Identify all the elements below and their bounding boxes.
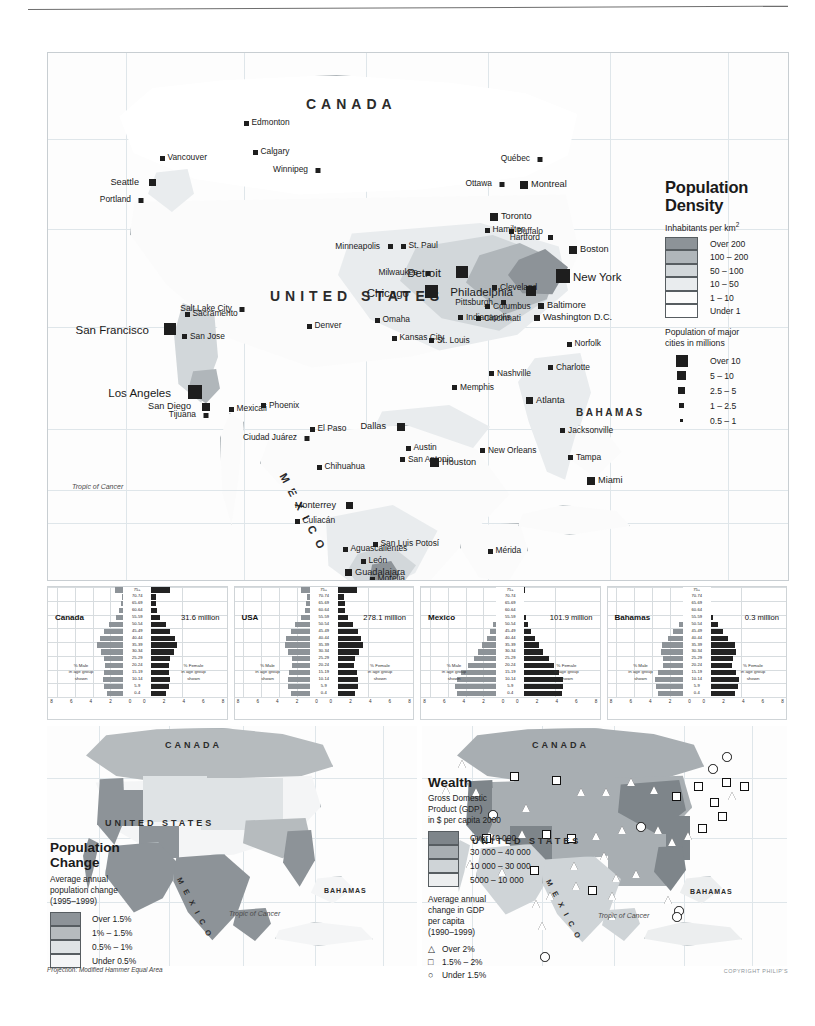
density-class-1: 100 – 200 xyxy=(665,250,805,264)
city-dot-icon xyxy=(204,413,209,418)
pyramid-axis-tick: 6 xyxy=(256,699,259,704)
city-label: Indianapolis xyxy=(466,313,511,322)
gdp-change-triangle-icon xyxy=(600,852,608,860)
city-label: Los Angeles xyxy=(108,387,171,399)
city-dot-icon xyxy=(500,182,505,187)
city-dot-icon xyxy=(526,397,533,404)
gdp-change-square-icon xyxy=(740,782,749,791)
pyramid-age-label: 10-14 xyxy=(496,677,524,681)
pyramid-axis-tick: 0 xyxy=(143,699,146,704)
pyramid-axis-tick: 4 xyxy=(182,699,185,704)
pyramid-axis-tick: 4 xyxy=(90,699,93,704)
pyramid-age-label: 25-29 xyxy=(123,656,151,660)
city-dot-icon xyxy=(343,547,348,552)
pyramid-age-label: 60-64 xyxy=(310,608,338,612)
city-dot-icon xyxy=(375,318,380,323)
density-swatch xyxy=(665,277,698,291)
wealth-swatch xyxy=(428,845,459,859)
wealth-legend: Wealth Gross Domestic Product (GDP) in $… xyxy=(428,775,588,982)
pyramid-age-label: 75+ xyxy=(123,588,151,592)
city-label: Ottawa xyxy=(465,179,492,188)
pyramid-age-label: 50-54 xyxy=(123,622,151,626)
city-dot-icon xyxy=(567,342,572,347)
wealth-class-1: 30 000 – 40 000 xyxy=(428,845,588,859)
city-label: Chicago xyxy=(367,287,409,299)
pyramid-male-note: % Malein age groupshown xyxy=(241,663,295,682)
pyramid-age-label: 5-9 xyxy=(123,684,151,688)
population-density-legend: Population Density Inhabitants per km2 O… xyxy=(665,178,805,428)
pyramid-axis-tick: 2 xyxy=(722,699,725,704)
city-dot-icon xyxy=(587,477,595,485)
pyramid-age-label: 70-74 xyxy=(123,594,151,598)
pyramid-age-label: 65-69 xyxy=(496,601,524,605)
pyramid-age-label: 55-59 xyxy=(496,615,524,619)
population-change-legend: Population Change Average annual populat… xyxy=(50,840,200,968)
pyramid-age-label: 25-29 xyxy=(310,656,338,660)
city-dot-icon xyxy=(452,385,457,390)
city-label: San Francisco xyxy=(75,324,149,336)
city-label: New York xyxy=(573,271,622,283)
map-country-label: CANADA xyxy=(165,740,222,750)
pyramid-age-label: 45-49 xyxy=(496,629,524,633)
legend-note: Average annual population change (1995–1… xyxy=(50,874,200,907)
pyramid-age-label: 20-24 xyxy=(123,663,151,667)
pyramid-value-axis: 8642002468 xyxy=(608,699,787,709)
wealth-symbol-square: □1.5% – 2% xyxy=(428,956,588,969)
pyramid-age-label: 40-44 xyxy=(496,636,524,640)
city-label: Nashville xyxy=(497,369,531,378)
map-country-label: UNITED STATES xyxy=(105,818,214,828)
pyramid-age-label: 0-4 xyxy=(683,691,711,695)
gdp-change-square-icon xyxy=(588,886,597,895)
wealth-class-3: 5000 – 10 000 xyxy=(428,873,588,887)
pyramid-axis-tick: 8 xyxy=(781,699,784,704)
pyramid-axis-tick: 0 xyxy=(129,699,132,704)
city-dot-icon xyxy=(305,436,310,441)
city-dot-icon xyxy=(295,519,300,524)
pyramid-axis-tick: 2 xyxy=(536,699,539,704)
pyramid-age-axis: 75+70-7465-6960-6455-5950-5445-4940-4435… xyxy=(683,587,711,697)
city-marker-icon xyxy=(677,371,686,380)
population-pyramids-row: 75+70-7465-6960-6455-5950-5445-4940-4435… xyxy=(47,586,787,720)
pyramid-age-label: 65-69 xyxy=(683,601,711,605)
gdp-change-triangle-icon xyxy=(664,896,672,904)
pyramid-population: 278.1 million xyxy=(363,613,406,622)
city-marker-icon xyxy=(678,387,685,394)
city-label: Seattle xyxy=(110,178,139,188)
city-dot-icon xyxy=(548,235,553,240)
density-swatch xyxy=(665,250,698,264)
pyramid-age-label: 25-29 xyxy=(683,656,711,660)
pyramid-age-label: 35-39 xyxy=(496,643,524,647)
city-dot-icon xyxy=(149,179,156,186)
city-label: Norfolk xyxy=(575,339,602,348)
pyramid-age-label: 15-19 xyxy=(123,670,151,674)
pyramid-age-label: 30-34 xyxy=(123,649,151,653)
city-label: Portland xyxy=(100,195,131,204)
pyramid-axis-tick: 8 xyxy=(423,699,426,704)
change-swatch xyxy=(50,940,81,954)
pyramid-axis-tick: 4 xyxy=(276,699,279,704)
city-dot-icon xyxy=(426,271,431,276)
pyramid-axis-tick: 8 xyxy=(222,699,225,704)
city-dot-icon xyxy=(538,303,544,309)
change-class-label: 0.5% – 1% xyxy=(92,942,133,952)
city-label: Houston xyxy=(442,458,476,468)
pyramid-axis-tick: 2 xyxy=(349,699,352,704)
city-marker-icon xyxy=(676,355,688,367)
gdp-change-triangle-icon xyxy=(650,786,658,794)
gdp-change-triangle-icon xyxy=(608,892,616,900)
city-dot-icon xyxy=(490,213,498,221)
pyramid-axis-tick: 0 xyxy=(315,699,318,704)
legend-subtitle: Inhabitants per km2 xyxy=(665,221,805,233)
density-swatch xyxy=(665,237,698,251)
gdp-change-triangle-icon xyxy=(618,826,626,834)
pyramid-age-label: 45-49 xyxy=(123,629,151,633)
pyramid-axis-tick: 6 xyxy=(389,699,392,704)
pyramid-axis-tick: 8 xyxy=(408,699,411,704)
pyramid-age-label: 10-14 xyxy=(310,677,338,681)
pyramid-axis-tick: 2 xyxy=(163,699,166,704)
city-dot-icon xyxy=(185,312,190,317)
tropic-of-cancer-label: Tropic of Cancer xyxy=(229,910,280,917)
city-label: Atlanta xyxy=(536,396,565,406)
pyramid-age-label: 55-59 xyxy=(683,615,711,619)
pyramid-age-label: 50-54 xyxy=(683,622,711,626)
